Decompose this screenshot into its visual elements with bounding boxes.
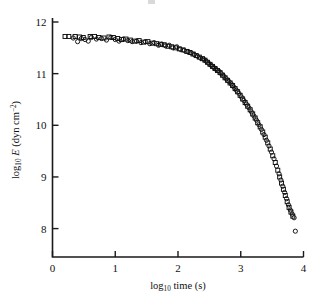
x-title-rest: time (s) [171,280,206,292]
svg-text:log10 time (s): log10 time (s) [150,280,206,293]
y-title-base: log [10,165,21,179]
y-tick-label-9: 9 [41,171,47,183]
svg-text:log10 E (dyn cm−2): log10 E (dyn cm−2) [10,100,24,179]
x-axis-tick-labels: 01234 [50,262,307,274]
y-tick-label-8: 8 [41,223,47,235]
y-axis-tick-labels: 89101112 [36,16,48,235]
x-axis-ticks [53,251,304,257]
x-tick-label-0: 0 [50,262,56,274]
data-point-circle [259,127,263,131]
y-tick-label-12: 12 [36,16,47,28]
page-crop-mark [148,0,155,4]
axis-spines [53,18,304,257]
relaxation-modulus-figure: 01234 89101112 log10 time (s) log10 E (d… [0,0,323,305]
data-point-circle [262,132,266,136]
x-title-base: log [150,280,164,291]
scatter-plot-canvas: 01234 89101112 log10 time (s) log10 E (d… [0,0,323,305]
x-tick-label-2: 2 [175,262,181,274]
x-tick-label-1: 1 [113,262,119,274]
data-point-circle [293,229,297,233]
x-axis-title: log10 time (s) [150,280,206,293]
data-point-circle [76,40,80,44]
y-axis-ticks [53,22,59,229]
data-points-layer [63,34,297,233]
y-title-close: ) [10,100,22,104]
y-tick-label-11: 11 [36,68,47,80]
y-title-units: (dyn cm [10,112,22,149]
y-axis-title: log10 E (dyn cm−2) [10,100,24,179]
x-tick-label-4: 4 [301,262,307,274]
x-tick-label-3: 3 [238,262,244,274]
y-tick-label-10: 10 [36,119,48,131]
